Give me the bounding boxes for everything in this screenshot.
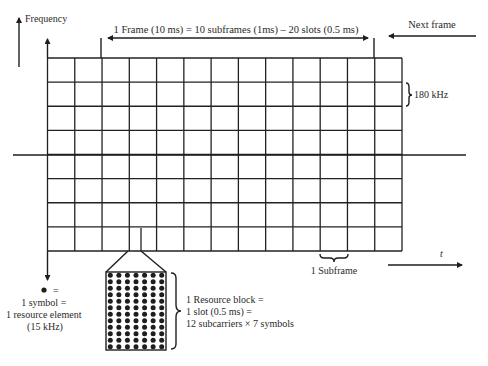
resource-element-dot: [142, 338, 147, 343]
re-line-1: 1 symbol =: [21, 297, 66, 308]
resource-element-dot: [116, 279, 121, 284]
frequency-axis: Frequency: [19, 13, 67, 67]
resource-element-dot: [151, 312, 156, 317]
resource-element-dot: [151, 331, 156, 336]
resource-element-dot: [151, 305, 156, 310]
brace-icon: [171, 273, 181, 349]
resource-element-dot: [108, 305, 113, 310]
resource-element-dot: [134, 344, 139, 349]
zoom-line-left: [106, 251, 128, 272]
resource-element-dot: [151, 273, 156, 278]
resource-element-description: 1 symbol = 1 resource element (15 kHz): [6, 297, 84, 333]
row-height-label: 180 kHz: [414, 89, 449, 100]
resource-element-dot: [159, 286, 164, 291]
resource-element-dot: [151, 318, 156, 323]
resource-element-dot: [142, 286, 147, 291]
resource-element-dot: [142, 331, 147, 336]
resource-element-dot: [108, 292, 113, 297]
resource-element-dot: [108, 286, 113, 291]
re-line-2: 1 resource element: [6, 309, 82, 320]
resource-element-dot: [134, 299, 139, 304]
resource-element-dot: [134, 325, 139, 330]
resource-element-dot: [108, 312, 113, 317]
resource-element-dot: [151, 292, 156, 297]
resource-element-dot: [134, 318, 139, 323]
resource-element-dot: [116, 286, 121, 291]
resource-element-dot: [159, 279, 164, 284]
resource-element-dot: [108, 279, 113, 284]
resource-element-dot: [159, 338, 164, 343]
frequency-label: Frequency: [25, 13, 67, 24]
resource-element-dot: [159, 318, 164, 323]
resource-element-dot: [134, 305, 139, 310]
resource-element-dot: [108, 273, 113, 278]
resource-element-dot: [159, 344, 164, 349]
resource-element-dot: [159, 325, 164, 330]
resource-element-dot: [142, 273, 147, 278]
resource-element-dot: [116, 299, 121, 304]
next-frame: Next frame: [389, 19, 476, 36]
resource-element-dot: [134, 279, 139, 284]
subframe-brace: 1 Subframe: [311, 254, 358, 276]
zoom-line-right: [141, 251, 166, 272]
re-line-3: (15 kHz): [27, 321, 63, 333]
legend-equals: =: [53, 285, 59, 296]
resource-element-dot: [125, 305, 130, 310]
resource-element-dot: [116, 305, 121, 310]
frame-span: 1 Frame (10 ms) = 10 subframes (1ms) – 2…: [101, 24, 374, 58]
time-label: t: [440, 248, 443, 259]
resource-element-dot: [116, 338, 121, 343]
resource-element-dot: [142, 279, 147, 284]
resource-element-dot: [134, 312, 139, 317]
resource-element-dot: [134, 286, 139, 291]
row-height-brace: 180 kHz: [406, 83, 449, 106]
resource-element-dot: [116, 325, 121, 330]
resource-element-dot: [116, 331, 121, 336]
frame-label: 1 Frame (10 ms) = 10 subframes (1ms) – 2…: [114, 24, 359, 36]
resource-element-dot: [134, 331, 139, 336]
resource-element-dot: [125, 325, 130, 330]
lte-resource-grid-diagram: Frequency 1 Frame (10 ms) = 10 subframes…: [0, 0, 488, 366]
resource-element-dot: [151, 338, 156, 343]
resource-element-dot: [142, 299, 147, 304]
resource-element-dot: [116, 273, 121, 278]
resource-element-dot: [142, 305, 147, 310]
resource-element-dot: [134, 292, 139, 297]
next-frame-label: Next frame: [408, 19, 456, 30]
resource-element-dot: [125, 279, 130, 284]
resource-element-dot: [116, 318, 121, 323]
resource-block-description: 1 Resource block = 1 slot (0.5 ms) = 12 …: [186, 294, 294, 329]
subframe-label: 1 Subframe: [311, 265, 358, 276]
bullet-symbol-icon: [41, 287, 46, 292]
resource-element-dot: [142, 325, 147, 330]
resource-element-dot: [151, 325, 156, 330]
resource-element-dot: [159, 305, 164, 310]
rb-line-2: 1 slot (0.5 ms) =: [186, 306, 252, 318]
resource-element-dot: [125, 344, 130, 349]
resource-element-dot: [159, 273, 164, 278]
resource-element-legend: = 1 symbol = 1 resource element (15 kHz): [6, 285, 84, 333]
resource-element-dot: [108, 331, 113, 336]
resource-element-dot: [151, 286, 156, 291]
resource-element-dot: [159, 331, 164, 336]
resource-element-dot: [134, 273, 139, 278]
resource-element-dot: [142, 292, 147, 297]
resource-element-dot: [125, 299, 130, 304]
resource-element-dot: [116, 312, 121, 317]
rb-line-1: 1 Resource block =: [186, 294, 264, 305]
resource-element-dot: [108, 344, 113, 349]
resource-element-dot: [116, 292, 121, 297]
resource-element-dot: [108, 338, 113, 343]
resource-element-dot: [108, 325, 113, 330]
resource-element-dot: [151, 344, 156, 349]
resource-element-dot: [108, 299, 113, 304]
resource-element-dot: [159, 312, 164, 317]
resource-element-dot: [142, 344, 147, 349]
resource-element-dot: [142, 318, 147, 323]
resource-element-dot: [125, 338, 130, 343]
brace-icon: [320, 254, 348, 262]
resource-element-dot: [159, 299, 164, 304]
resource-element-dot: [142, 312, 147, 317]
resource-element-dot: [151, 279, 156, 284]
resource-element-dot: [108, 318, 113, 323]
